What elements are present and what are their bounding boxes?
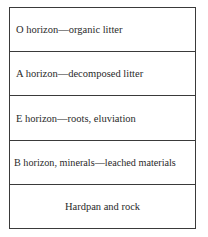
layer-label: Hardpan and rock [65, 201, 140, 212]
layer-label: O horizon—organic litter [16, 24, 123, 35]
layer-label: B horizon, minerals—leached materials [14, 157, 176, 168]
layer-b-horizon: B horizon, minerals—leached materials [10, 141, 195, 185]
layer-hardpan-rock: Hardpan and rock [10, 185, 195, 228]
layer-o-horizon: O horizon—organic litter [10, 8, 195, 52]
layer-label: E horizon—roots, eluviation [16, 113, 136, 124]
soil-profile-diagram: O horizon—organic litter A horizon—decom… [9, 7, 196, 229]
layer-e-horizon: E horizon—roots, eluviation [10, 96, 195, 140]
layer-a-horizon: A horizon—decomposed litter [10, 52, 195, 96]
layer-label: A horizon—decomposed litter [16, 68, 143, 79]
